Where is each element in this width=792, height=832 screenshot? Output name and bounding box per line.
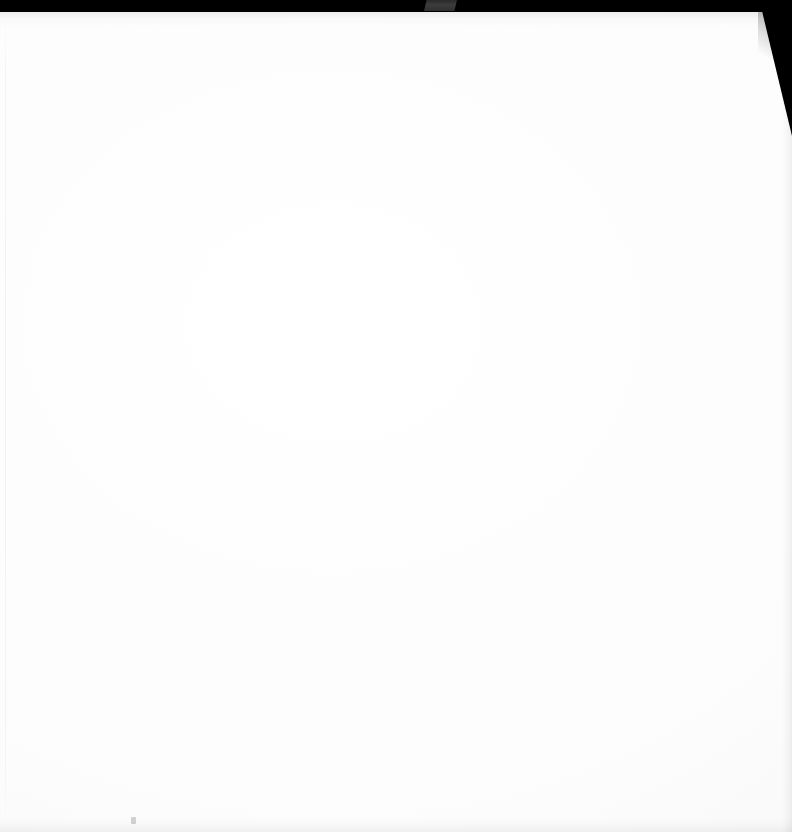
scanner-lid-tab [424,0,457,11]
paper-sheet [0,11,792,832]
scanner-top-black-band [0,0,792,12]
page-body [0,11,792,832]
scanned-page-canvas [0,0,792,832]
